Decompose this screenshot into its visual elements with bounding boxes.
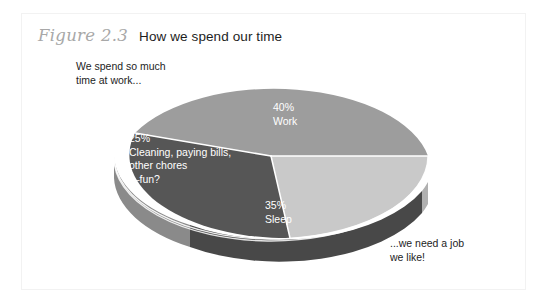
annotation-job-note: ...we need a job we like! — [390, 237, 464, 264]
figure-card: Figure 2.3 How we spend our time — [21, 13, 526, 290]
pie-label-chores: 25% Cleaning, paying bills, other chores… — [129, 132, 231, 186]
annotation-work-note: We spend so much time at work... — [76, 60, 166, 87]
pie-label-work: 40% Work — [273, 101, 297, 128]
pie-chart: 40% Work 35% Sleep 25% Cleaning, paying … — [22, 14, 527, 291]
pie-label-sleep: 35% Sleep — [265, 199, 292, 226]
pie-slice-side-work — [422, 182, 428, 213]
